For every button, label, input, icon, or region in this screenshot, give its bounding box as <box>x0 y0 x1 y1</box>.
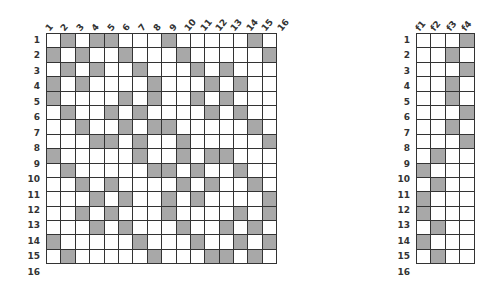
empty-cell <box>118 235 132 249</box>
column-label: 3 <box>74 22 86 33</box>
empty-cell <box>190 120 204 134</box>
empty-cell <box>219 192 233 206</box>
empty-cell <box>417 120 431 134</box>
empty-cell <box>205 134 219 148</box>
empty-cell <box>190 105 204 119</box>
row-label: 10 <box>27 172 40 187</box>
row-label: 15 <box>397 249 410 264</box>
empty-cell <box>90 48 104 62</box>
empty-cell <box>75 163 89 177</box>
column-label: 14 <box>244 17 260 33</box>
column-label: 12 <box>213 17 229 33</box>
empty-cell <box>75 134 89 148</box>
empty-cell <box>460 221 474 235</box>
empty-cell <box>234 149 248 163</box>
empty-cell <box>248 62 262 76</box>
empty-cell <box>248 91 262 105</box>
empty-cell <box>176 235 190 249</box>
empty-cell <box>104 77 118 91</box>
empty-cell <box>176 62 190 76</box>
filled-cell <box>205 177 219 191</box>
empty-cell <box>417 105 431 119</box>
empty-cell <box>90 206 104 220</box>
empty-cell <box>61 206 75 220</box>
row-label: 9 <box>34 157 40 172</box>
matrix-row <box>417 134 475 148</box>
filled-cell <box>104 105 118 119</box>
filled-cell <box>162 34 176 48</box>
empty-cell <box>176 105 190 119</box>
empty-cell <box>104 163 118 177</box>
empty-cell <box>118 77 132 91</box>
filled-cell <box>445 91 459 105</box>
empty-cell <box>234 34 248 48</box>
empty-cell <box>176 163 190 177</box>
empty-cell <box>61 235 75 249</box>
row-label: 12 <box>27 203 40 218</box>
filled-cell <box>75 206 89 220</box>
filled-cell <box>90 134 104 148</box>
filled-cell <box>431 249 445 263</box>
filled-cell <box>147 91 161 105</box>
filled-cell <box>234 163 248 177</box>
row-label: 4 <box>404 79 410 94</box>
empty-cell <box>445 62 459 76</box>
empty-cell <box>47 134 61 148</box>
empty-cell <box>47 120 61 134</box>
empty-cell <box>162 105 176 119</box>
column-label: 7 <box>136 22 148 33</box>
empty-cell <box>219 235 233 249</box>
empty-cell <box>133 206 147 220</box>
empty-cell <box>47 62 61 76</box>
filled-cell <box>118 91 132 105</box>
empty-cell <box>118 249 132 263</box>
filled-cell <box>147 249 161 263</box>
right-matrix-column-labels: f1f2f3f4 <box>416 3 480 33</box>
column-label: 15 <box>260 17 276 33</box>
filled-cell <box>147 120 161 134</box>
filled-cell <box>176 48 190 62</box>
matrix-row <box>47 62 277 76</box>
empty-cell <box>234 48 248 62</box>
row-label: 16 <box>27 265 40 280</box>
empty-cell <box>431 120 445 134</box>
empty-cell <box>460 120 474 134</box>
filled-cell <box>162 192 176 206</box>
filled-cell <box>190 62 204 76</box>
empty-cell <box>90 105 104 119</box>
empty-cell <box>431 105 445 119</box>
row-label: 3 <box>34 64 40 79</box>
empty-cell <box>234 192 248 206</box>
filled-cell <box>460 105 474 119</box>
empty-cell <box>234 249 248 263</box>
empty-cell <box>262 77 276 91</box>
matrix-row <box>47 149 277 163</box>
matrix-row <box>47 163 277 177</box>
empty-cell <box>61 48 75 62</box>
empty-cell <box>90 120 104 134</box>
filled-cell <box>133 62 147 76</box>
empty-cell <box>133 249 147 263</box>
column-label: f4 <box>460 19 474 33</box>
matrix-row <box>47 192 277 206</box>
row-label: 9 <box>404 157 410 172</box>
column-label: 13 <box>229 17 245 33</box>
matrix-row <box>417 105 475 119</box>
filled-cell <box>205 77 219 91</box>
empty-cell <box>147 149 161 163</box>
empty-cell <box>147 221 161 235</box>
empty-cell <box>162 221 176 235</box>
empty-cell <box>75 149 89 163</box>
filled-cell <box>61 163 75 177</box>
empty-cell <box>90 177 104 191</box>
matrix-row <box>417 206 475 220</box>
matrix-row <box>47 120 277 134</box>
filled-cell <box>431 221 445 235</box>
row-label: 6 <box>404 110 410 125</box>
left-matrix-row-labels: 12345678910111213141516 <box>20 33 40 281</box>
empty-cell <box>104 149 118 163</box>
empty-cell <box>417 134 431 148</box>
empty-cell <box>262 163 276 177</box>
empty-cell <box>147 235 161 249</box>
filled-cell <box>104 206 118 220</box>
